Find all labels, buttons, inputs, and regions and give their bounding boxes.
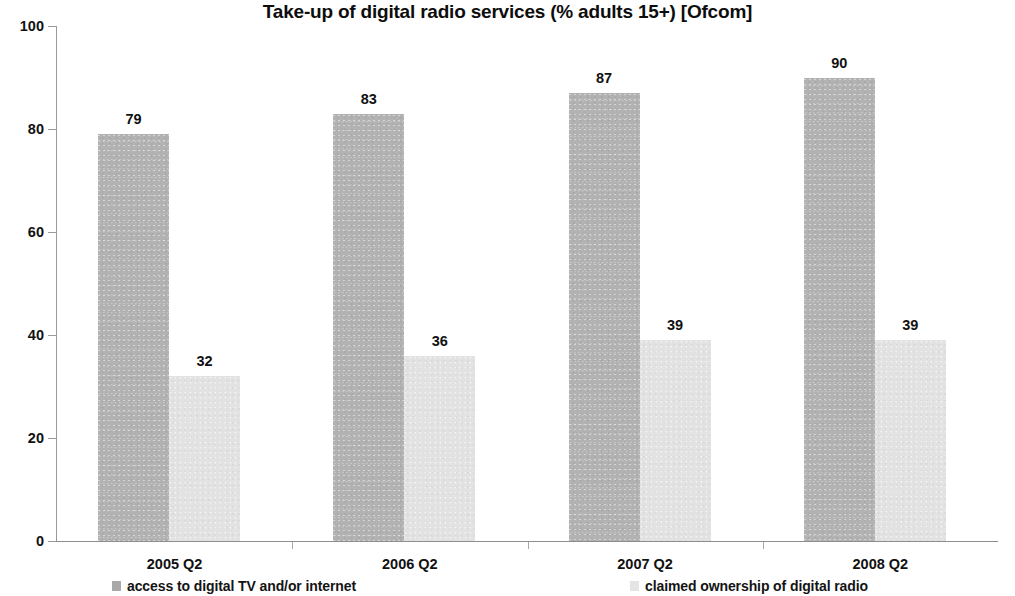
- legend-entry[interactable]: claimed ownership of digital radio: [630, 578, 868, 594]
- y-axis-tick-label: 80: [0, 122, 44, 137]
- x-axis-category-label: 2006 Q2: [292, 556, 527, 572]
- y-axis-tick: [48, 129, 56, 130]
- bar[interactable]: [875, 340, 946, 541]
- y-axis-tick: [48, 438, 56, 439]
- chart-title: Take-up of digital radio services (% adu…: [0, 1, 1015, 23]
- bar[interactable]: [804, 78, 875, 542]
- x-axis-separator-tick: [763, 542, 764, 549]
- legend-swatch-icon: [630, 581, 639, 591]
- bar[interactable]: [333, 114, 404, 541]
- bar-value-label: 39: [875, 318, 946, 333]
- bar-value-label: 39: [640, 318, 711, 333]
- legend-entry[interactable]: access to digital TV and/or internet: [112, 578, 356, 594]
- bar[interactable]: [569, 93, 640, 541]
- bar-value-label: 83: [333, 92, 404, 107]
- bar[interactable]: [98, 134, 169, 541]
- bar-value-label: 32: [169, 354, 240, 369]
- y-axis-tick-label: 20: [0, 431, 44, 446]
- chart-container: Take-up of digital radio services (% adu…: [0, 0, 1015, 596]
- legend-label: claimed ownership of digital radio: [645, 578, 868, 594]
- bar[interactable]: [404, 356, 475, 541]
- y-axis-tick-label: 0: [0, 534, 44, 549]
- plot-area: [57, 26, 998, 541]
- y-axis-tick-label: 60: [0, 225, 44, 240]
- y-axis-tick-label: 40: [0, 328, 44, 343]
- bar[interactable]: [640, 340, 711, 541]
- legend-label: access to digital TV and/or internet: [127, 578, 356, 594]
- x-axis-category-label: 2008 Q2: [763, 556, 998, 572]
- legend-swatch-icon: [112, 581, 121, 591]
- bar-value-label: 87: [569, 71, 640, 86]
- chart-legend: access to digital TV and/or internetclai…: [0, 578, 1015, 596]
- x-axis-category-label: 2005 Q2: [57, 556, 292, 572]
- bar[interactable]: [169, 376, 240, 541]
- bar-value-label: 36: [404, 334, 475, 349]
- y-axis-tick: [48, 232, 56, 233]
- y-axis-tick-label: 100: [0, 19, 44, 34]
- y-axis-tick: [48, 335, 56, 336]
- x-axis-separator-tick: [292, 542, 293, 549]
- bar-value-label: 79: [98, 112, 169, 127]
- x-axis-category-label: 2007 Q2: [528, 556, 763, 572]
- y-axis-tick: [48, 26, 56, 27]
- y-axis-tick: [48, 541, 56, 542]
- bar-value-label: 90: [804, 56, 875, 71]
- x-axis-separator-tick: [528, 542, 529, 549]
